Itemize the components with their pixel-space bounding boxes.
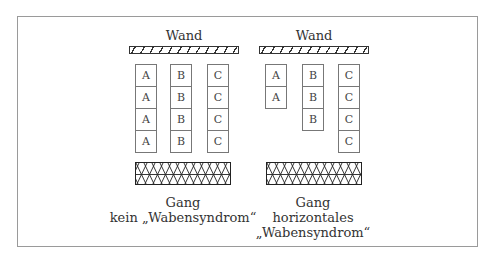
left-cell-b3: B: [170, 108, 192, 131]
left-cell-b1: B: [170, 64, 192, 87]
right-corridor-label: Gang: [258, 195, 368, 210]
right-cell-c4: C: [338, 130, 360, 153]
right-cell-c2: C: [338, 86, 360, 109]
right-caption-line1: horizontales: [258, 210, 368, 225]
right-cell-c1: C: [338, 64, 360, 87]
left-cell-c3: C: [207, 108, 229, 131]
left-cell-c4: C: [207, 130, 229, 153]
right-cell-a2: A: [265, 86, 287, 109]
left-cell-b2: B: [170, 86, 192, 109]
left-cell-a4: A: [135, 130, 157, 153]
right-caption-line2: „Wabensyndrom“: [248, 225, 378, 240]
left-corridor: [135, 162, 231, 185]
corridor-lattice-icon: [136, 163, 231, 185]
left-caption: kein „Wabensyndrom“: [108, 210, 258, 225]
left-cell-b4: B: [170, 130, 192, 153]
left-corridor-label: Gang: [128, 195, 238, 210]
left-wall-label: Wand: [129, 28, 239, 43]
left-cell-c2: C: [207, 86, 229, 109]
right-cell-b1: B: [302, 64, 324, 87]
left-cell-a2: A: [135, 86, 157, 109]
right-corridor: [266, 162, 362, 185]
left-wall: [129, 46, 239, 54]
right-wall: [259, 46, 369, 54]
right-cell-b2: B: [302, 86, 324, 109]
left-cell-a1: A: [135, 64, 157, 87]
corridor-lattice-icon: [267, 163, 362, 185]
right-cell-c3: C: [338, 108, 360, 131]
left-cell-c1: C: [207, 64, 229, 87]
right-wall-label: Wand: [259, 28, 369, 43]
right-cell-b3: B: [302, 108, 324, 131]
right-cell-a1: A: [265, 64, 287, 87]
left-cell-a3: A: [135, 108, 157, 131]
